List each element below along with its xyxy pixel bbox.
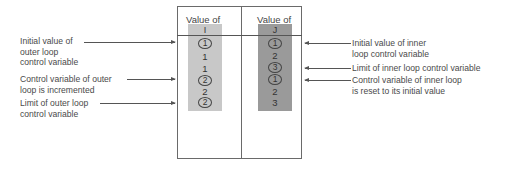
label-line: loop control variable: [352, 49, 429, 60]
arrow-outer-initial: [84, 42, 175, 43]
label-line: outer loop: [20, 47, 78, 58]
outer-value: 1: [198, 51, 212, 62]
label-inner-reset: Control variable of inner loop is reset …: [352, 75, 462, 96]
label-outer-initial: Initial value of outer loop control vari…: [20, 36, 78, 68]
inner-value: 3: [268, 97, 282, 108]
label-line: Initial value of: [20, 36, 78, 47]
inner-value: 3: [268, 62, 282, 73]
outer-value: 1: [198, 38, 212, 49]
outer-column-header: Value of: [186, 14, 220, 25]
inner-variable-name: J: [268, 25, 282, 35]
arrow-outer-limit: [100, 103, 175, 104]
label-line: Initial value of inner: [352, 38, 429, 49]
outer-variable-name: I: [198, 25, 212, 35]
arrow-outer-increment: [127, 79, 175, 80]
inner-value: 1: [268, 74, 282, 85]
inner-value: 2: [268, 50, 282, 61]
label-line: control variable: [20, 109, 88, 120]
outer-value: 2: [198, 97, 212, 108]
label-line: Control variable of inner loop: [352, 75, 462, 86]
arrow-inner-reset: [305, 80, 351, 81]
label-line: control variable: [20, 57, 78, 68]
label-line: Limit of inner loop control variable: [352, 63, 481, 74]
column-divider: [241, 6, 242, 159]
label-line: is reset to its initial value: [352, 86, 462, 97]
label-inner-initial: Initial value of inner loop control vari…: [352, 38, 429, 59]
label-inner-limit: Limit of inner loop control variable: [352, 63, 481, 74]
label-line: Control variable of outer: [20, 74, 112, 85]
outer-value: 1: [198, 63, 212, 74]
outer-value: 2: [198, 86, 212, 97]
label-outer-limit: Limit of outer loop control variable: [20, 98, 88, 119]
arrow-inner-initial: [305, 43, 351, 44]
arrow-inner-limit: [305, 68, 351, 69]
inner-column-header: Value of: [257, 14, 291, 25]
inner-value: 1: [268, 38, 282, 49]
label-line: Limit of outer loop: [20, 98, 88, 109]
label-outer-increment: Control variable of outer loop is increm…: [20, 74, 112, 95]
label-line: loop is incremented: [20, 85, 112, 96]
inner-value: 2: [268, 86, 282, 97]
outer-value: 2: [198, 75, 212, 86]
header-rule: [177, 35, 302, 36]
